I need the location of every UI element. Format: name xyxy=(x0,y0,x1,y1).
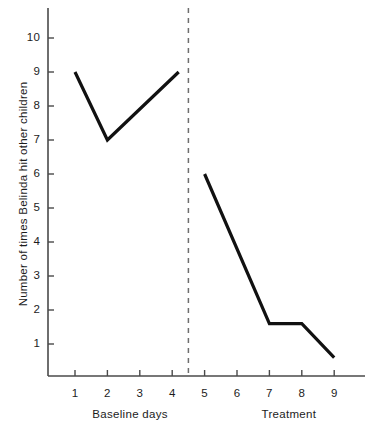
chart-container: Number of times Belinda hit other childr… xyxy=(0,0,371,423)
y-tick-label: 4 xyxy=(20,235,40,247)
y-tick-label: 2 xyxy=(20,303,40,315)
series-line-baseline xyxy=(75,72,179,140)
series-line-treatment xyxy=(205,174,335,358)
data-series-group xyxy=(75,72,334,358)
y-tick-label: 5 xyxy=(20,201,40,213)
y-tick-label: 8 xyxy=(20,99,40,111)
axes-group xyxy=(48,8,365,376)
x-tick-label: 6 xyxy=(229,387,245,399)
x-tick-label: 3 xyxy=(132,387,148,399)
phase-label: Baseline days xyxy=(70,408,190,420)
x-tick-label: 8 xyxy=(294,387,310,399)
x-tick-label: 7 xyxy=(261,387,277,399)
x-tick-label: 5 xyxy=(197,387,213,399)
x-tick-label: 4 xyxy=(164,387,180,399)
chart-plot-area xyxy=(0,0,371,423)
phase-label: Treatment xyxy=(229,408,349,420)
x-tick-label: 9 xyxy=(326,387,342,399)
x-tick-label: 2 xyxy=(99,387,115,399)
y-tick-label: 3 xyxy=(20,269,40,281)
axis-ticks-group xyxy=(48,38,334,376)
x-tick-label: 1 xyxy=(67,387,83,399)
y-tick-label: 6 xyxy=(20,167,40,179)
y-tick-label: 7 xyxy=(20,133,40,145)
y-tick-label: 1 xyxy=(20,337,40,349)
y-tick-label: 9 xyxy=(20,65,40,77)
y-tick-label: 10 xyxy=(20,31,40,43)
